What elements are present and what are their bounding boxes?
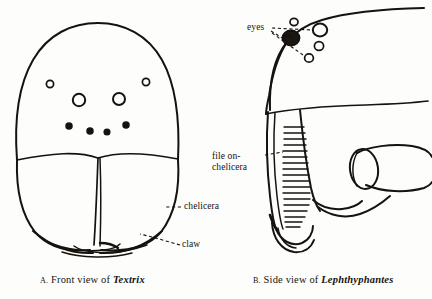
eye-upper-left <box>46 80 53 87</box>
eye-lower-1 <box>66 123 72 129</box>
eye-lower-3 <box>104 129 110 135</box>
eye-group-a <box>46 78 149 134</box>
label-claw: claw <box>182 239 200 250</box>
chelicera-inner-edge-b <box>300 110 320 211</box>
stridulatory-file-striations <box>283 127 310 227</box>
figure-container: chelicera claw eyes file on- chelicera A… <box>0 0 432 299</box>
eye-lower-b <box>305 54 314 62</box>
label-eyes: eyes <box>247 22 264 33</box>
eye-lower-2 <box>87 128 93 134</box>
panel-b-drawing <box>265 8 432 252</box>
carapace-lower-margin-b <box>266 101 428 114</box>
eye-median-right <box>113 93 125 105</box>
eye-mid-b <box>314 42 323 51</box>
eye-large-b <box>313 24 327 37</box>
label-file-line1: file on- <box>212 151 241 161</box>
caption-panel-b: B. Side view of Lephthyphantes <box>253 274 393 285</box>
caption-panel-a: A. Front view of Textrix <box>40 274 145 285</box>
caption-a-text: Front view of <box>51 274 110 285</box>
eye-group-b <box>283 18 328 62</box>
claw-tip-accent <box>100 243 118 248</box>
label-file-line2: chelicera <box>212 162 247 172</box>
label-chelicera: chelicera <box>184 201 219 212</box>
chelicera-right-outline <box>101 159 178 250</box>
chelicera-left-outline <box>17 160 90 250</box>
caption-a-taxon: Textrix <box>113 274 145 285</box>
eye-dorsal-b <box>290 18 298 25</box>
eye-lower-4 <box>123 122 129 128</box>
chelicera-distal-end-b <box>276 226 313 244</box>
eye-median-left <box>73 94 85 106</box>
eye-upper-right <box>142 78 149 85</box>
chelicera-median-furrow-2 <box>100 158 101 246</box>
figure-drawing <box>0 0 432 299</box>
label-file-on-chelicera: file on- chelicera <box>212 151 272 173</box>
eye-tubercle-b <box>283 31 300 46</box>
caption-b-taxon: Lephthyphantes <box>321 274 393 285</box>
caption-b-index: B. <box>253 276 261 285</box>
chelicera-median-furrow <box>94 158 98 245</box>
chelicera-outer-edge-inner-b <box>274 113 283 229</box>
carapace-outline <box>16 23 178 160</box>
caption-b-text: Side view of <box>264 274 319 285</box>
panel-a-drawing <box>16 23 181 257</box>
caption-a-index: A. <box>40 276 48 285</box>
